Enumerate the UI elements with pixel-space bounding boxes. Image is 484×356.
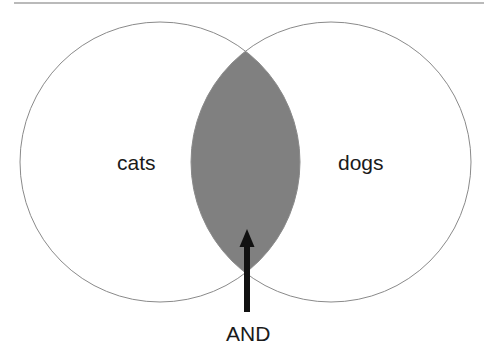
venn-diagram (0, 0, 484, 356)
label-dogs: dogs (338, 152, 384, 173)
label-and: AND (226, 323, 270, 344)
label-cats: cats (117, 152, 156, 173)
